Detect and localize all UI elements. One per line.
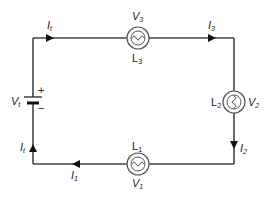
lamp-l1-name: L1	[132, 140, 142, 153]
current-label-right: I2	[240, 142, 247, 155]
lamp-l1-icon	[127, 153, 149, 175]
current-label-left: It	[20, 141, 26, 154]
battery-minus: −	[38, 102, 44, 114]
lamp-l1-voltage: V1	[132, 177, 143, 190]
battery-label: Vt	[11, 95, 21, 108]
current-label-bottom: I1	[71, 169, 78, 182]
lamp-l3-voltage: V3	[132, 10, 143, 23]
arrow-right-icon	[46, 34, 54, 42]
lamp-l2-voltage: V2	[248, 96, 259, 109]
lamp-l2-name: L2	[211, 96, 221, 109]
circuit-diagram: Vt + − V3 L3 L2 V2 L1 V1 It I3 I2 I1 It	[0, 0, 264, 197]
arrow-right-icon	[208, 34, 216, 42]
arrow-left-icon	[72, 160, 80, 168]
arrow-up-icon	[29, 144, 37, 152]
lamp-l2-icon	[223, 91, 245, 113]
battery-plus: +	[38, 84, 44, 96]
current-label-top-left: It	[47, 19, 53, 32]
current-label-top-right: I3	[208, 19, 215, 32]
arrow-down-icon	[230, 141, 238, 149]
lamp-l3-name: L3	[132, 52, 142, 65]
lamp-l3-icon	[127, 27, 149, 49]
